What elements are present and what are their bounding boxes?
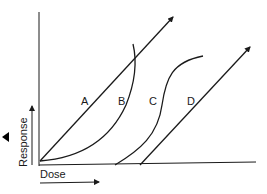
curve-a-label: A <box>81 96 88 107</box>
x-axis-title: Dose <box>40 169 66 180</box>
triangle-marker-icon <box>2 132 9 142</box>
x-axis <box>39 162 256 165</box>
curve-a-line <box>40 17 173 161</box>
y-axis-title: Response <box>18 117 29 167</box>
curve-c-path <box>115 56 203 165</box>
curve-d-label: D <box>187 96 195 107</box>
curve-c-label: C <box>149 96 157 107</box>
dose-response-diagram <box>0 0 267 194</box>
dose-arrow <box>40 182 99 183</box>
curve-b-label: B <box>118 96 125 107</box>
